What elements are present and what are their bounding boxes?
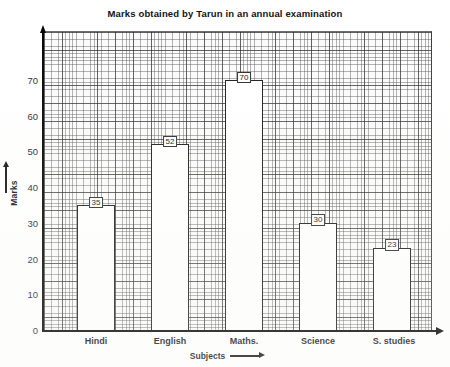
x-axis-category-label: English — [154, 336, 187, 346]
x-axis-title-group: Subjects — [0, 351, 450, 361]
x-axis-category-label: Maths. — [230, 336, 259, 346]
y-axis-title-group: Marks — [0, 160, 44, 220]
bar-english[interactable]: 52 — [151, 144, 189, 330]
y-tick-label: 0 — [12, 325, 38, 336]
x-axis-arrow-icon — [436, 327, 444, 335]
y-axis-arrow-icon — [40, 25, 46, 33]
bar-s-studies[interactable]: 23 — [373, 248, 411, 330]
right-arrow-icon — [230, 355, 260, 357]
y-tick-label: 60 — [12, 110, 38, 121]
y-tick-label: 70 — [12, 75, 38, 86]
y-tick-label: 10 — [12, 289, 38, 300]
x-axis-title: Subjects — [190, 351, 225, 361]
up-arrow-icon — [5, 166, 7, 193]
bar-science[interactable]: 30 — [299, 223, 337, 330]
bar-hindi[interactable]: 35 — [77, 205, 115, 330]
bar-value-label: 30 — [311, 214, 325, 226]
bar-maths[interactable]: 70 — [225, 80, 263, 330]
bar-value-label: 52 — [163, 136, 177, 148]
y-axis-title: Marks — [9, 163, 19, 223]
bar-value-label: 70 — [237, 72, 251, 84]
chart-title: Marks obtained by Tarun in an annual exa… — [0, 8, 450, 19]
bar-chart: Marks obtained by Tarun in an annual exa… — [0, 0, 450, 367]
bar-value-label: 35 — [89, 197, 103, 209]
x-axis-category-label: S. studies — [373, 336, 416, 346]
x-axis-category-label: Science — [301, 336, 335, 346]
y-tick-label: 50 — [12, 146, 38, 157]
y-tick-label: 20 — [12, 253, 38, 264]
bar-value-label: 23 — [385, 239, 399, 251]
x-axis-category-label: Hindi — [85, 336, 108, 346]
x-axis-line — [42, 330, 438, 332]
